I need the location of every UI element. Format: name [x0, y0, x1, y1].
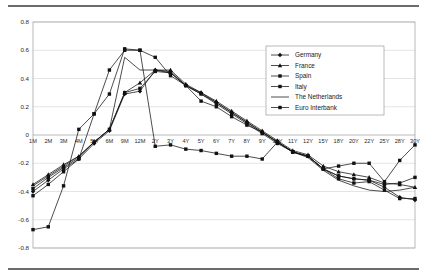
- data-point: [31, 187, 34, 190]
- x-axis-tick-9Y: 9Y: [259, 138, 266, 144]
- data-point: [154, 56, 157, 59]
- data-point: [413, 197, 416, 200]
- y-axis-tick-0.2: 0.2: [20, 103, 29, 110]
- data-point: [123, 49, 126, 52]
- data-point: [352, 181, 355, 184]
- data-point: [230, 115, 233, 118]
- bottom-divider: [8, 268, 419, 270]
- x-axis-tick-3M: 3M: [60, 138, 68, 144]
- data-point: [367, 162, 370, 165]
- data-point: [276, 140, 279, 143]
- data-point: [199, 99, 202, 102]
- x-axis-tick-30Y: 30Y: [410, 138, 420, 144]
- data-point: [413, 176, 416, 179]
- data-point: [398, 181, 401, 184]
- data-point: [230, 154, 233, 157]
- data-point: [383, 180, 386, 183]
- page-root: 0.80.60.40.20-0.2-0.4-0.6-0.81M2M3M4M5M6…: [0, 0, 427, 277]
- data-point: [138, 87, 141, 90]
- top-divider: [8, 5, 419, 7]
- data-point: [337, 164, 340, 167]
- y-axis-tick--0.2: -0.2: [18, 159, 29, 166]
- legend-label-spain: Spain: [295, 72, 312, 80]
- x-axis-tick-28Y: 28Y: [395, 138, 405, 144]
- y-axis-tick-0.6: 0.6: [20, 46, 29, 53]
- data-point: [291, 150, 294, 153]
- x-axis-tick-5Y: 5Y: [198, 138, 205, 144]
- data-point: [62, 184, 65, 187]
- data-point: [398, 159, 401, 162]
- data-point: [108, 92, 111, 95]
- x-axis-tick-15Y: 15Y: [318, 138, 328, 144]
- data-point: [245, 154, 248, 157]
- x-axis-tick-1M: 1M: [29, 138, 37, 144]
- data-point: [413, 143, 416, 146]
- x-axis-tick-12M: 12M: [135, 138, 146, 144]
- data-point: [77, 157, 80, 160]
- y-axis-tick--0.4: -0.4: [18, 188, 29, 195]
- data-point: [169, 143, 172, 146]
- data-point: [77, 128, 80, 131]
- x-axis-tick-22Y: 22Y: [364, 138, 374, 144]
- data-point: [367, 180, 370, 183]
- legend-label-euro-interbank: Euro Interbank: [295, 104, 338, 111]
- x-axis-tick-18Y: 18Y: [334, 138, 344, 144]
- data-point: [278, 74, 281, 77]
- data-point: [62, 170, 65, 173]
- data-point: [398, 197, 401, 200]
- data-point: [278, 106, 281, 109]
- x-axis-tick-25Y: 25Y: [379, 138, 389, 144]
- data-point: [169, 74, 172, 77]
- yield-curve-chart: 0.80.60.40.20-0.2-0.4-0.6-0.81M2M3M4M5M6…: [0, 10, 427, 265]
- data-point: [154, 145, 157, 148]
- x-axis-tick-6M: 6M: [106, 138, 114, 144]
- data-point: [123, 91, 126, 94]
- data-point: [184, 147, 187, 150]
- data-point: [215, 152, 218, 155]
- chart-canvas: 0.80.60.40.20-0.2-0.4-0.6-0.81M2M3M4M5M6…: [0, 10, 427, 265]
- legend-label-italy: Italy: [295, 83, 308, 91]
- data-point: [306, 154, 309, 157]
- data-point: [47, 183, 50, 186]
- x-axis-tick-3Y: 3Y: [167, 138, 174, 144]
- x-axis-tick-4Y: 4Y: [182, 138, 189, 144]
- x-axis-tick-9M: 9M: [121, 138, 129, 144]
- data-point: [352, 177, 355, 180]
- data-point: [322, 167, 325, 170]
- legend-label-germany: Germany: [295, 51, 322, 59]
- x-axis-tick-12Y: 12Y: [303, 138, 313, 144]
- y-axis-tick-0.4: 0.4: [20, 75, 29, 82]
- data-point: [138, 49, 141, 52]
- y-axis-tick-0.8: 0.8: [20, 18, 29, 25]
- chart-legend: GermanyFranceSpainItalyThe NetherlandsEu…: [266, 46, 384, 115]
- data-point: [352, 162, 355, 165]
- data-point: [31, 194, 34, 197]
- y-axis-tick--0.8: -0.8: [18, 244, 29, 251]
- x-axis-tick-2M: 2M: [44, 138, 52, 144]
- data-point: [261, 157, 264, 160]
- data-point: [215, 105, 218, 108]
- y-axis-tick--0.6: -0.6: [18, 216, 29, 223]
- data-point: [108, 68, 111, 71]
- legend-label-france: France: [295, 62, 315, 69]
- data-point: [278, 85, 281, 88]
- legend-label-the-netherlands: The Netherlands: [295, 93, 342, 100]
- data-point: [245, 123, 248, 126]
- data-point: [47, 225, 50, 228]
- x-axis-tick-8Y: 8Y: [243, 138, 250, 144]
- data-point: [199, 149, 202, 152]
- x-axis-tick-20Y: 20Y: [349, 138, 359, 144]
- data-point: [92, 112, 95, 115]
- data-point: [31, 228, 34, 231]
- x-axis-tick-11Y: 11Y: [288, 138, 298, 144]
- x-axis-tick-7Y: 7Y: [228, 138, 235, 144]
- x-axis-tick-6Y: 6Y: [213, 138, 220, 144]
- x-axis-tick-2Y: 2Y: [152, 138, 159, 144]
